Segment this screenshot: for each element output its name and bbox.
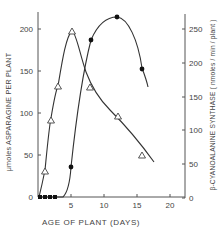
square-marker (53, 195, 57, 199)
x-ticks: 5 10 15 20 (69, 194, 175, 210)
asparagine-markers (42, 28, 146, 174)
asparagine-curve (39, 31, 154, 197)
right-y-axis-title: β-CYANOALANINE SYNTHASE ( nmoles / min /… (209, 19, 217, 190)
axes (38, 12, 185, 198)
triangle-marker (48, 117, 55, 123)
left-tick-label: 50 (24, 151, 33, 160)
square-marker (38, 195, 42, 199)
triangle-marker (139, 152, 146, 158)
left-tick-label: 0 (29, 193, 34, 202)
asparagine-synthase-chart: 0 50 100 150 200 0 50 100 150 200 250 5 … (0, 0, 223, 233)
right-tick-label: 250 (189, 25, 203, 34)
left-tick-label: 100 (20, 109, 34, 118)
x-tick-label: 20 (166, 201, 175, 210)
x-tick-label: 5 (69, 201, 74, 210)
square-marker (48, 195, 52, 199)
triangle-marker (55, 83, 62, 89)
left-tick-label: 200 (20, 25, 34, 34)
synthase-curve (39, 17, 148, 197)
square-marker (43, 195, 47, 199)
circle-marker (69, 165, 74, 170)
circle-marker (89, 38, 94, 43)
x-axis-title: AGE OF PLANT (DAYS) (42, 218, 140, 227)
right-tick-label: 50 (189, 160, 198, 169)
synthase-markers (38, 15, 144, 199)
x-tick-label: 10 (100, 201, 109, 210)
right-tick-label: 150 (189, 93, 203, 102)
left-tick-label: 150 (20, 67, 34, 76)
right-tick-label: 200 (189, 59, 203, 68)
circle-marker (140, 67, 145, 72)
left-y-axis-title: μmoles ASPARAGINE PER PLANT (4, 52, 13, 171)
right-tick-label: 100 (189, 126, 203, 135)
circle-marker (115, 15, 120, 20)
x-tick-label: 15 (133, 201, 142, 210)
triangle-marker (42, 168, 49, 174)
right-tick-label: 0 (189, 194, 194, 203)
triangle-marker (69, 28, 76, 34)
